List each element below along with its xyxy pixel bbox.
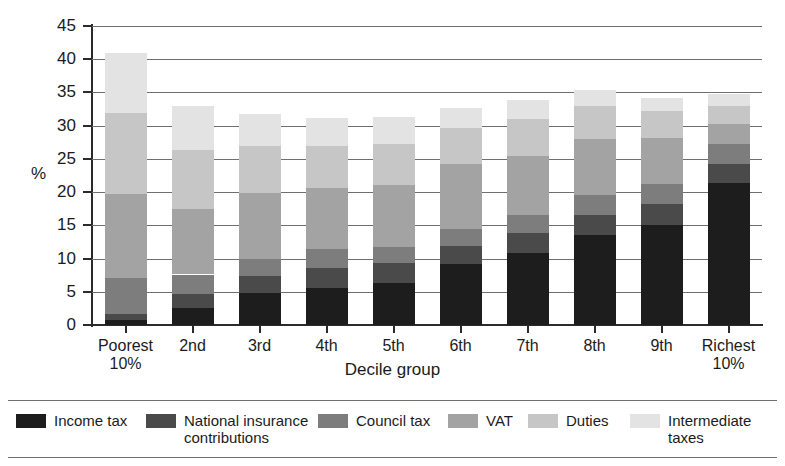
legend-item-income-tax[interactable]: Income tax xyxy=(16,412,127,429)
bar-segment-income-tax xyxy=(373,283,415,325)
y-tick-label: 45 xyxy=(34,17,76,34)
bar-segment-duties xyxy=(440,128,482,165)
bar-2nd xyxy=(172,26,214,325)
legend-label: Intermediate taxes xyxy=(668,412,751,446)
y-tick-mark xyxy=(83,25,92,27)
x-tick-label-line1: 9th xyxy=(650,337,672,354)
bar-segment-national-insurance-contributions xyxy=(239,276,281,293)
bar-segment-intermediate-taxes xyxy=(373,117,415,144)
y-tick-label: 0 xyxy=(34,316,76,333)
bar-segment-intermediate-taxes xyxy=(172,106,214,151)
bar-segment-duties xyxy=(574,106,616,139)
x-tick-mark xyxy=(393,325,395,333)
legend-item-vat[interactable]: VAT xyxy=(448,412,513,429)
bar-segment-council-tax xyxy=(708,144,750,164)
legend-item-council-tax[interactable]: Council tax xyxy=(318,412,430,429)
bar-segment-national-insurance-contributions xyxy=(373,263,415,283)
legend-label: VAT xyxy=(486,412,513,429)
y-tick-mark xyxy=(83,324,92,326)
bar-9th xyxy=(641,26,683,325)
bar-segment-vat xyxy=(641,138,683,185)
bar-segment-vat xyxy=(440,164,482,228)
legend-item-national-insurance[interactable]: National insurance contributions xyxy=(146,412,308,446)
legend-item-duties[interactable]: Duties xyxy=(528,412,609,429)
x-tick-label-line1: 7th xyxy=(516,337,538,354)
bar-segment-income-tax xyxy=(507,253,549,325)
x-tick-mark xyxy=(728,325,730,333)
bar-segment-income-tax xyxy=(574,235,616,325)
bar-segment-national-insurance-contributions xyxy=(172,294,214,307)
bar-poorest-10 xyxy=(105,26,147,325)
y-tick-mark xyxy=(83,258,92,260)
bar-segment-intermediate-taxes xyxy=(641,98,683,111)
bar-segment-intermediate-taxes xyxy=(507,100,549,119)
bar-segment-intermediate-taxes xyxy=(239,114,281,146)
legend-swatch-icon xyxy=(448,414,478,428)
x-tick-mark xyxy=(125,325,127,333)
bar-segment-duties xyxy=(105,113,147,194)
x-tick-label-line1: 8th xyxy=(583,337,605,354)
y-tick-mark xyxy=(83,125,92,127)
bar-richest-10 xyxy=(708,26,750,325)
bar-segment-intermediate-taxes xyxy=(306,118,348,146)
x-tick-mark xyxy=(259,325,261,333)
x-tick-mark xyxy=(460,325,462,333)
bar-segment-national-insurance-contributions xyxy=(507,233,549,254)
y-tick-label: 30 xyxy=(34,117,76,134)
bar-7th xyxy=(507,26,549,325)
y-axis-title: % xyxy=(10,164,46,184)
legend-label: Duties xyxy=(566,412,609,429)
bar-segment-council-tax xyxy=(105,278,147,315)
bar-segment-duties xyxy=(373,144,415,185)
x-tick-mark xyxy=(192,325,194,333)
x-tick-label-line1: Poorest xyxy=(98,337,153,354)
y-tick-mark xyxy=(83,291,92,293)
bar-segment-vat xyxy=(708,124,750,143)
x-tick-mark xyxy=(326,325,328,333)
y-tick-mark xyxy=(83,191,92,193)
x-tick-label-line1: Richest xyxy=(702,337,755,354)
x-tick-label-line1: 6th xyxy=(449,337,471,354)
y-tick-label: 20 xyxy=(34,183,76,200)
bar-segment-council-tax xyxy=(239,259,281,276)
bar-5th xyxy=(373,26,415,325)
bar-segment-council-tax xyxy=(306,249,348,268)
bar-segment-duties xyxy=(306,146,348,188)
bar-segment-duties xyxy=(641,111,683,138)
y-tick-label: 35 xyxy=(34,83,76,100)
bar-segment-vat xyxy=(507,156,549,215)
y-tick-label: 5 xyxy=(34,283,76,300)
y-tick-mark xyxy=(83,91,92,93)
y-tick-mark xyxy=(83,224,92,226)
y-tick-mark xyxy=(83,58,92,60)
bar-segment-council-tax xyxy=(507,215,549,233)
bar-segment-income-tax xyxy=(172,308,214,325)
bar-segment-vat xyxy=(574,139,616,195)
bar-segment-national-insurance-contributions xyxy=(708,164,750,184)
bar-segment-vat xyxy=(373,185,415,246)
legend-swatch-icon xyxy=(630,414,660,428)
bar-segment-vat xyxy=(172,209,214,275)
bar-segment-council-tax xyxy=(574,195,616,215)
x-tick-mark xyxy=(527,325,529,333)
bar-segment-national-insurance-contributions xyxy=(105,314,147,319)
legend-swatch-icon xyxy=(318,414,348,428)
bar-segment-income-tax xyxy=(641,225,683,325)
bar-4th xyxy=(306,26,348,325)
bar-segment-national-insurance-contributions xyxy=(574,215,616,235)
stacked-bar-chart: % 051015202530354045 Poorest10%2nd3rd4th… xyxy=(0,0,785,392)
bar-segment-council-tax xyxy=(373,247,415,264)
bar-segment-income-tax xyxy=(708,183,750,325)
bar-segment-national-insurance-contributions xyxy=(641,204,683,225)
legend-item-intermediate[interactable]: Intermediate taxes xyxy=(630,412,751,446)
y-tick-label: 15 xyxy=(34,216,76,233)
legend-swatch-icon xyxy=(16,414,46,428)
bar-segment-income-tax xyxy=(239,293,281,325)
x-tick-label-line1: 2nd xyxy=(179,337,206,354)
x-tick-mark xyxy=(661,325,663,333)
x-tick-label-line1: 4th xyxy=(315,337,337,354)
bar-segment-vat xyxy=(306,188,348,249)
bar-segment-council-tax xyxy=(440,229,482,246)
bar-segment-intermediate-taxes xyxy=(105,53,147,113)
bar-segment-vat xyxy=(239,193,281,259)
